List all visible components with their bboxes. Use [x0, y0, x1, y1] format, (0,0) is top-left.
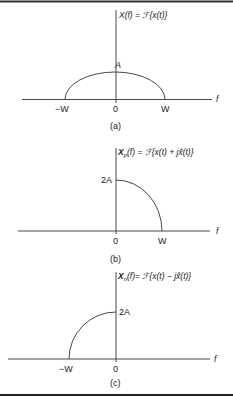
panel-a-tick-w: W [161, 104, 170, 114]
panel-b-tick-w: W [158, 236, 167, 246]
panel-b-x-axis-label: f [216, 226, 220, 236]
panel-c: Xn(f)= ℱ{x(t) − jx̂(t)} 2A f −W 0 (c) [8, 271, 218, 388]
panel-a-spectrum-curve [65, 72, 165, 100]
panel-c-y-label: Xn(f)= ℱ{x(t) − jx̂(t)} [117, 271, 191, 282]
panel-c-spectrum-curve [69, 312, 116, 359]
panel-b-peak-label: 2A [101, 175, 112, 185]
panel-a-x-axis-label: f [216, 94, 220, 104]
panel-c-caption: (c) [110, 378, 121, 388]
panel-c-tick-neg-w: −W [59, 364, 73, 374]
panel-b-caption: (b) [110, 254, 121, 264]
panel-b-spectrum-curve [116, 180, 162, 231]
panel-a-y-label: X(f) = ℱ{x(t)} [118, 10, 167, 20]
panel-b: Xp(f) = ℱ{x(t) + jx̂(t)} 2A f 0 W (b) [18, 147, 220, 264]
panel-a-tick-zero: 0 [113, 104, 118, 114]
panel-c-x-axis-label: f [214, 354, 218, 364]
panel-a-caption: (a) [110, 121, 121, 131]
panel-a-peak-label: A [114, 60, 121, 70]
panel-b-y-label: Xp(f) = ℱ{x(t) + jx̂(t)} [117, 147, 194, 158]
panel-b-tick-zero: 0 [113, 236, 118, 246]
panel-c-peak-label: 2A [119, 307, 130, 317]
panel-a-tick-neg-w: −W [55, 104, 69, 114]
panel-a: X(f) = ℱ{x(t)} A f −W 0 W (a) [22, 10, 220, 131]
spectrum-figure: X(f) = ℱ{x(t)} A f −W 0 W (a) Xp(f) = ℱ{… [0, 0, 233, 408]
panel-c-tick-zero: 0 [113, 364, 118, 374]
